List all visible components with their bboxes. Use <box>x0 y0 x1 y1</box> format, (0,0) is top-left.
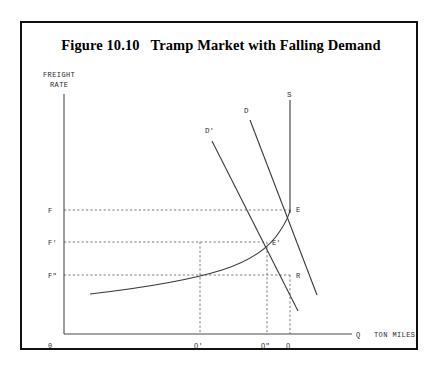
economics-plot: FREIGHT RATE Q TON MILES 0 <box>22 23 420 352</box>
figure-frame: Figure 10.10 Tramp Market with Falling D… <box>20 21 418 350</box>
x-axis-label-symbol: Q <box>356 331 361 339</box>
curve-label-D-prime: D' <box>205 127 214 135</box>
y-axis-label-line2: RATE <box>50 81 68 89</box>
y-tick-label-F: F <box>48 207 53 215</box>
x-tick-label-Q-prime: Q' <box>194 342 203 350</box>
curve-label-D: D <box>244 107 249 115</box>
y-tick-label-F-double-prime: F" <box>48 272 57 280</box>
point-label-E-prime: E' <box>272 239 280 247</box>
point-label-E: E <box>296 206 300 214</box>
x-axis-label-text: TON MILES <box>374 331 415 339</box>
figure-page: Figure 10.10 Tramp Market with Falling D… <box>0 0 439 379</box>
x-tick-label-Q: Q <box>286 342 291 350</box>
y-tick-label-F-prime: F' <box>48 239 57 247</box>
point-label-R: R <box>296 272 301 280</box>
curve-label-S: S <box>287 91 292 99</box>
x-tick-label-Q-double-prime: Q" <box>261 342 270 350</box>
supply-curve <box>90 210 290 294</box>
y-axis-label-line1: FREIGHT <box>43 71 75 79</box>
demand-line-D-prime <box>212 141 298 311</box>
origin-label: 0 <box>48 342 53 350</box>
demand-line-D <box>250 120 317 295</box>
